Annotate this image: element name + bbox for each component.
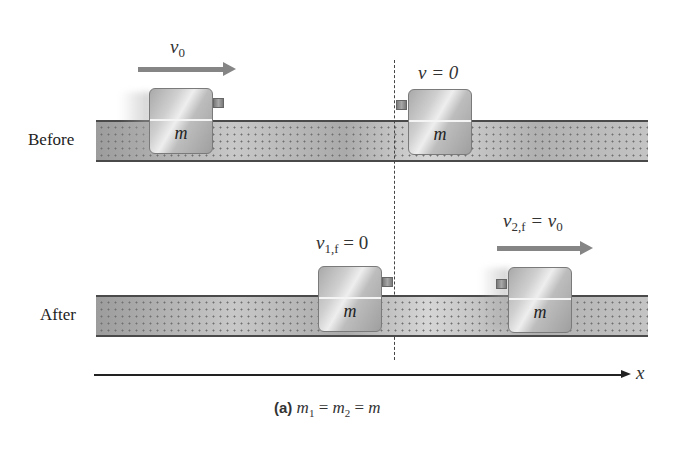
after-label: After: [40, 305, 76, 325]
after-block-2-velocity-label: v2,f = v0: [503, 210, 563, 235]
before-motion-blur: [120, 92, 152, 152]
before-block-1: m: [149, 88, 213, 154]
figure-caption: (a) m1 = m2 = m: [274, 398, 381, 419]
before-block-2-velocity-label: v = 0: [418, 62, 458, 84]
before-label: Before: [28, 130, 74, 150]
before-block-2-bumper: [396, 100, 407, 110]
after-block-2-bumper: [496, 279, 507, 289]
after-block-2: m: [508, 267, 572, 333]
block-divider: [319, 297, 381, 299]
after-block-1-bumper: [382, 277, 393, 287]
block-divider: [150, 119, 212, 121]
block-divider: [409, 120, 471, 122]
mass-label: m: [409, 124, 471, 145]
mass-label: m: [509, 302, 571, 323]
after-block-1-velocity-label: v1,f = 0: [316, 232, 368, 257]
before-block-1-bumper: [213, 98, 224, 108]
after-block-1: m: [318, 266, 382, 332]
x-axis-label: x: [636, 362, 644, 384]
block-divider: [509, 298, 571, 300]
mass-label: m: [319, 301, 381, 322]
after-motion-blur: [480, 268, 510, 328]
before-velocity-label: v0: [170, 36, 185, 61]
mass-label: m: [150, 123, 212, 144]
after-velocity-arrow: [497, 246, 581, 251]
before-block-2: m: [408, 89, 472, 155]
x-axis-arrow: [94, 374, 622, 376]
before-velocity-arrow: [138, 67, 224, 72]
